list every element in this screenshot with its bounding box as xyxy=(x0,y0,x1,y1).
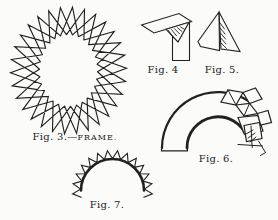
fig3-caption-prefix: Fig. 3.— xyxy=(33,131,78,142)
figures-artwork xyxy=(0,0,278,220)
folded-square xyxy=(244,123,262,142)
fig4-caption: Fig. 4 xyxy=(143,64,183,75)
fig3-caption-name: FRAME. xyxy=(77,133,117,142)
oval-opening xyxy=(42,37,95,104)
fig4-folded-strip xyxy=(142,14,192,61)
fig5-caption: Fig. 5. xyxy=(202,64,242,75)
back-strip xyxy=(198,12,220,51)
fig7-toothed-arch xyxy=(73,151,153,197)
arch-base xyxy=(162,147,188,151)
fig6-caption: Fig. 6. xyxy=(196,153,236,164)
fig7-caption: Fig. 7. xyxy=(87,199,127,210)
folded-square xyxy=(243,88,262,104)
engraving-page: Fig. 3.—FRAME. Fig. 4 Fig. 5. Fig. 6. Fi… xyxy=(0,0,278,220)
fig3-caption: Fig. 3.—FRAME. xyxy=(20,131,130,142)
folded-squares-chain xyxy=(221,88,272,156)
sawtooth-zigzag xyxy=(73,151,153,197)
arch-arc xyxy=(81,159,144,190)
fig5-folded-strip xyxy=(198,12,240,52)
fig3-frame-starburst xyxy=(11,7,127,134)
front-strip xyxy=(219,12,240,52)
fig6-arch-with-folds xyxy=(162,88,272,156)
inner-arc xyxy=(187,117,247,148)
